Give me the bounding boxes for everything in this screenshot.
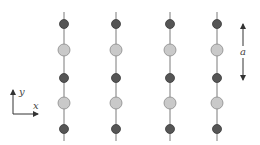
coordinate-axes: y x — [13, 86, 39, 114]
dark-atom — [166, 125, 175, 134]
lattice-spacing-indicator: a — [240, 24, 246, 80]
dark-atom — [112, 20, 121, 29]
light-atom — [211, 44, 223, 56]
dark-atom — [60, 125, 69, 134]
dark-atom — [60, 74, 69, 83]
dark-atom — [112, 125, 121, 134]
dark-atom — [166, 20, 175, 29]
dark-atom — [213, 20, 222, 29]
crystal-chain-diagram: y x a — [0, 0, 260, 145]
y-axis-label: y — [18, 86, 25, 97]
light-atom — [58, 44, 70, 56]
atom-chain — [164, 12, 176, 141]
x-axis-label: x — [33, 100, 39, 111]
light-atom — [164, 97, 176, 109]
atom-chain — [110, 12, 122, 141]
light-atom — [110, 44, 122, 56]
light-atom — [211, 97, 223, 109]
dark-atom — [112, 74, 121, 83]
dark-atom — [166, 74, 175, 83]
lattice-constant-label: a — [240, 46, 246, 57]
light-atom — [164, 44, 176, 56]
light-atom — [110, 97, 122, 109]
atom-chains — [58, 12, 223, 141]
atom-chain — [211, 12, 223, 141]
dark-atom — [60, 20, 69, 29]
dark-atom — [213, 74, 222, 83]
dark-atom — [213, 125, 222, 134]
atom-chain — [58, 12, 70, 141]
light-atom — [58, 97, 70, 109]
